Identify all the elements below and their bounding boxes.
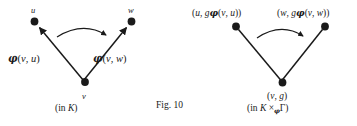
right-edge-left bbox=[239, 30, 282, 82]
caption-prefix: (in bbox=[55, 103, 68, 113]
close-paren: ) bbox=[284, 91, 287, 101]
right-curved-arrow bbox=[257, 29, 303, 38]
phi-symbol: φ bbox=[93, 52, 103, 64]
right-node-label-top-left: (u, gφ(v, u)) bbox=[192, 8, 241, 19]
left-curved-arrow bbox=[57, 28, 106, 37]
left-node-label-u: u bbox=[31, 6, 35, 15]
left-diagram-group bbox=[31, 18, 136, 86]
left-diagram-caption: (in K) bbox=[55, 104, 77, 114]
left-edge-label-phi-v-u: φ(v, u) bbox=[8, 53, 40, 65]
right-node-top-left bbox=[232, 23, 240, 31]
right-diagram-group bbox=[232, 23, 329, 87]
right-diagram-caption: (in K ×φΓ) bbox=[247, 104, 289, 114]
right-edge-label-close-paren: ) bbox=[123, 53, 127, 64]
left-node-u bbox=[31, 18, 39, 26]
right-node-bottom bbox=[279, 79, 287, 87]
left-node-label-v: v bbox=[82, 92, 86, 101]
right-edge-right bbox=[282, 30, 323, 82]
left-edge-label-phi-v-w: φ(v, w) bbox=[93, 53, 126, 65]
close-paren: ) bbox=[326, 8, 329, 18]
phi-symbol: φ bbox=[296, 7, 305, 18]
caption-suffix: ) bbox=[285, 103, 288, 113]
figure-number-label: Fig. 10 bbox=[156, 101, 183, 111]
right-node-label-bottom: (v, g) bbox=[267, 92, 287, 102]
right-edge-label-arg-w: w bbox=[116, 53, 123, 64]
caption-times-symbol: × bbox=[266, 103, 274, 113]
left-node-v bbox=[81, 78, 89, 86]
phi-symbol: φ bbox=[8, 52, 18, 64]
caption-prefix: (in bbox=[247, 103, 260, 113]
figure-10-container: u w v φ(v, u) φ(v, w) (in K) Fig. 10 (u,… bbox=[0, 0, 357, 126]
left-edge-label-close-paren: ) bbox=[36, 53, 40, 64]
close-paren: ) bbox=[238, 8, 241, 18]
caption-suffix: ) bbox=[74, 103, 77, 113]
left-node-w bbox=[128, 18, 136, 26]
right-node-top-right bbox=[321, 23, 329, 31]
right-node-label-top-right: (w, gφ(v, w)) bbox=[277, 8, 329, 19]
phi-symbol: φ bbox=[209, 7, 218, 18]
left-edge-v-to-u bbox=[40, 28, 84, 81]
left-node-label-w: w bbox=[128, 6, 134, 15]
